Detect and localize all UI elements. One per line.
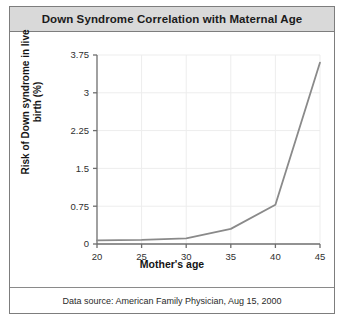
x-axis-title: Mother's age — [10, 258, 334, 270]
y-tick-label: 3 — [84, 87, 89, 98]
y-tick-label: 0 — [84, 238, 89, 249]
y-tick-label: 2.25 — [71, 125, 90, 136]
chart-card: Down Syndrome Correlation with Maternal … — [9, 6, 335, 314]
y-tick-label: 3.75 — [71, 49, 90, 60]
y-axis-title-text: Risk of Down syndrome in live birth (%) — [20, 29, 43, 174]
data-series-line — [97, 63, 320, 241]
page-title: Down Syndrome Correlation with Maternal … — [42, 13, 303, 25]
y-axis-ticks: 00.751.52.2533.75 — [71, 49, 98, 249]
x-axis-title-text: Mother's age — [140, 258, 204, 270]
gridlines — [97, 55, 320, 244]
chart-title-bar: Down Syndrome Correlation with Maternal … — [10, 7, 334, 32]
y-tick-label: 0.75 — [71, 201, 90, 212]
y-axis-title: Risk of Down syndrome in live birth (%) — [20, 17, 44, 187]
data-source-note: Data source: American Family Physician, … — [62, 296, 281, 306]
y-tick-label: 1.5 — [76, 163, 89, 174]
plot-region: Risk of Down syndrome in live birth (%) … — [10, 32, 334, 288]
line-chart: 00.751.52.2533.75 202530354045 — [10, 32, 336, 288]
chart-footer: Data source: American Family Physician, … — [10, 287, 334, 313]
